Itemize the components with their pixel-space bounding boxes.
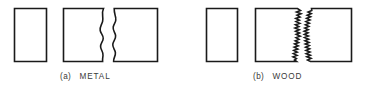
metal-broken-right-piece	[113, 9, 158, 62]
panel-a-metal: (a) METAL	[15, 9, 158, 82]
metal-broken-left-piece	[64, 9, 104, 62]
fracture-appearance-figure: (a) METAL (b) WOOD	[0, 0, 376, 89]
caption-metal-tag: (a)	[60, 72, 71, 81]
caption-metal-label: METAL	[79, 72, 110, 81]
metal-intact-specimen	[15, 9, 47, 62]
caption-wood-label: WOOD	[272, 72, 302, 81]
caption-metal: (a) METAL	[60, 72, 111, 81]
wood-broken-right-piece	[304, 9, 351, 62]
caption-wood: (b) WOOD	[253, 72, 302, 81]
figure-canvas: (a) METAL (b) WOOD	[0, 0, 376, 89]
panel-b-wood: (b) WOOD	[207, 9, 352, 82]
wood-broken-left-piece	[256, 9, 302, 62]
wood-intact-specimen	[207, 9, 238, 62]
caption-wood-tag: (b)	[253, 72, 264, 81]
